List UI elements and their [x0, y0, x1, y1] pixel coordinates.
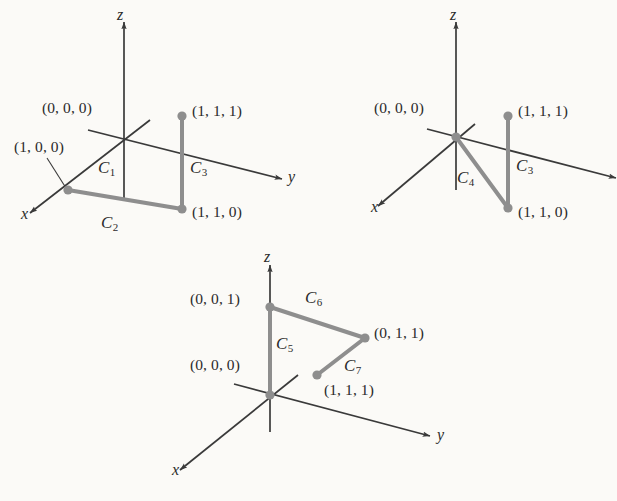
diagram-3-point-label-011: (0, 1, 1): [374, 324, 424, 342]
diagram-3-y-axis-label: y: [437, 426, 444, 444]
diagram-1-curve-label-C3: C3: [190, 158, 207, 178]
diagram-1-curves: [63, 111, 186, 213]
curve-label-C3b-base: C: [516, 156, 527, 175]
curve-label-C3-base: C: [190, 158, 201, 177]
point-dot-110-d2: [503, 203, 512, 212]
curve-label-C4-base: C: [457, 168, 468, 187]
diagram-1-curve-label-C2: C2: [101, 213, 118, 233]
curve-label-C4-sub: 4: [469, 176, 475, 188]
diagram-1-point-label-111: (1, 1, 1): [192, 102, 242, 120]
diagram-1-y-axis-label: y: [288, 168, 295, 186]
point-dot-100-d1: [63, 185, 72, 194]
point-dot-110-d1: [177, 204, 186, 213]
diagram-1-y-axis: [88, 130, 282, 179]
curve-label-C6-sub: 6: [317, 296, 323, 308]
diagram-2-point-label-110: (1, 1, 0): [518, 203, 568, 221]
curve-label-C7-sub: 7: [356, 364, 362, 376]
point-dot-001-d3: [265, 302, 274, 311]
figure-canvas: z y x (0, 0, 0) (1, 0, 0) (1, 1, 1) (1, …: [0, 0, 617, 501]
curve-label-C3-sub: 3: [202, 166, 208, 178]
curve-label-C7-base: C: [344, 356, 355, 375]
diagram-2-z-axis-label: z: [450, 6, 456, 24]
curve-label-C2-sub: 2: [113, 221, 119, 233]
diagram-2-point-label-111: (1, 1, 1): [518, 102, 568, 120]
diagram-2-curve-label-C4: C4: [457, 168, 474, 188]
diagram-1-point-label-110: (1, 1, 0): [192, 203, 242, 221]
diagram-3-point-label-111: (1, 1, 1): [324, 381, 374, 399]
point-dot-111-d2: [503, 111, 512, 120]
diagram-2-point-label-origin: (0, 0, 0): [374, 99, 424, 117]
diagram-1-curve-label-C1: C1: [98, 158, 115, 178]
diagram-2-curves: [451, 111, 512, 212]
diagram-2-x-axis-label: x: [371, 198, 378, 216]
curve-label-C3b-sub: 3: [528, 164, 534, 176]
curve-C2: [68, 190, 182, 209]
diagram-3-x-axis-label: x: [172, 461, 179, 479]
diagram-vector-layer: [0, 0, 617, 501]
diagram-2-curve-label-C3: C3: [516, 156, 533, 176]
curve-label-C2-base: C: [101, 213, 112, 232]
diagram-3-curve-label-C5: C5: [276, 334, 293, 354]
diagram-3-z-axis-label: z: [264, 248, 270, 266]
diagram-1-z-axis-label: z: [117, 6, 123, 24]
diagram-1-leader-line-100: [47, 158, 66, 188]
point-dot-111-d1: [177, 111, 186, 120]
curve-label-C1-sub: 1: [110, 166, 116, 178]
point-dot-111-d3: [312, 370, 321, 379]
curve-label-C1-base: C: [98, 158, 109, 177]
point-dot-origin-d2: [451, 132, 460, 141]
diagram-3-point-label-origin: (0, 0, 0): [190, 356, 240, 374]
diagram-1-x-axis-label: x: [21, 205, 28, 223]
curve-label-C5-sub: 5: [288, 342, 294, 354]
diagram-3-point-label-001: (0, 0, 1): [190, 290, 240, 308]
diagram-1-point-label-100: (1, 0, 0): [14, 138, 64, 156]
diagram-1-axes: [30, 22, 282, 213]
curve-label-C6-base: C: [305, 288, 316, 307]
point-dot-011-d3: [360, 333, 369, 342]
diagram-1-point-label-origin: (0, 0, 0): [42, 99, 92, 117]
curve-label-C5-base: C: [276, 334, 287, 353]
point-dot-origin-d3: [265, 390, 274, 399]
diagram-3-curve-label-C6: C6: [305, 288, 322, 308]
diagram-3-curve-label-C7: C7: [344, 356, 361, 376]
diagram-3-x-axis: [180, 375, 298, 470]
